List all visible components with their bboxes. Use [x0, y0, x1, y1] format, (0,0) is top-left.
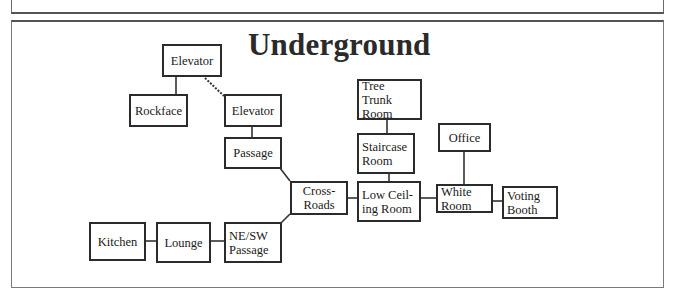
room-label: Kitchen — [98, 235, 138, 249]
room-label: Elevator — [232, 104, 274, 118]
room-label: Low Ceil- ing Room — [362, 188, 413, 216]
link-elevator-elevator-dashed — [205, 78, 224, 96]
room-label: Passage — [233, 146, 273, 160]
room-staircase-room[interactable]: Staircase Room — [357, 133, 415, 174]
room-label: Cross- Roads — [303, 184, 336, 212]
room-lounge[interactable]: Lounge — [156, 222, 211, 263]
room-label: NE/SW Passage — [229, 229, 269, 257]
room-white-room[interactable]: White Room — [436, 184, 493, 213]
room-elevator-lower[interactable]: Elevator — [224, 94, 282, 127]
room-office[interactable]: Office — [438, 123, 491, 152]
room-kitchen[interactable]: Kitchen — [89, 222, 146, 261]
room-tree-trunk-room[interactable]: Tree Trunk Room — [357, 79, 422, 120]
room-elevator-top[interactable]: Elevator — [162, 44, 222, 77]
room-low-ceiling-room[interactable]: Low Ceil- ing Room — [357, 181, 421, 222]
room-voting-booth[interactable]: Voting Booth — [502, 186, 558, 219]
room-label: Lounge — [164, 236, 202, 250]
room-label: White Room — [441, 185, 472, 213]
room-label: Voting Booth — [507, 189, 540, 217]
link-passage-crossroads — [280, 168, 290, 181]
room-rockface[interactable]: Rockface — [129, 94, 188, 127]
room-label: Tree Trunk Room — [362, 79, 417, 121]
room-cross-roads[interactable]: Cross- Roads — [290, 181, 348, 215]
room-label: Rockface — [135, 104, 182, 118]
room-label: Elevator — [171, 54, 213, 68]
room-passage[interactable]: Passage — [224, 137, 282, 169]
room-label: Staircase Room — [362, 140, 407, 168]
room-ne-sw-passage[interactable]: NE/SW Passage — [224, 222, 282, 263]
room-label: Office — [449, 131, 481, 145]
